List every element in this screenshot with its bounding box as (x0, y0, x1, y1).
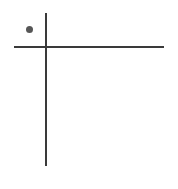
y-axis-line (45, 13, 47, 166)
scatter-figure (0, 0, 178, 189)
data-point-marker (26, 26, 33, 33)
plot-area (0, 0, 178, 189)
x-axis-line (14, 46, 164, 48)
